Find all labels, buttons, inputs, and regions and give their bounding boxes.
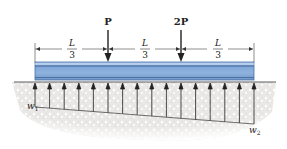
beam	[35, 62, 254, 80]
w2-label: w2	[249, 125, 261, 136]
soil-foundation	[12, 82, 276, 141]
load-p-label: P	[104, 16, 112, 27]
dimension-denominator: 3	[215, 50, 221, 60]
dimension-numerator: L	[68, 38, 75, 48]
beam-foundation-diagram: L 3 L 3 L 3 P 2P	[0, 0, 287, 149]
load-2p-label: 2P	[174, 16, 189, 27]
dimension-denominator: 3	[69, 50, 75, 60]
load-2p: 2P	[174, 16, 189, 62]
dimension-label-1: L 3	[67, 38, 77, 60]
dimension-numerator: L	[141, 38, 148, 48]
dimension-numerator: L	[214, 38, 221, 48]
dimension-label-3: L 3	[213, 38, 223, 60]
dimension-label-2: L 3	[140, 38, 150, 60]
dimension-denominator: 3	[142, 50, 148, 60]
load-p: P	[104, 16, 112, 62]
